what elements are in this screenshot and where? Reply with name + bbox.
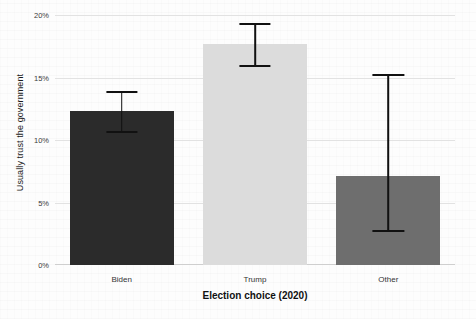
bar-trump[interactable] [203,44,307,265]
error-bar-cap-upper-trump [239,23,270,25]
error-bar-cap-lower-biden [106,131,137,133]
error-bar-line-other [388,74,390,230]
y-tick-label: 15% [34,73,49,82]
y-tick-label: 5% [38,198,49,207]
y-tick-label: 10% [34,136,49,145]
error-bar-cap-lower-trump [239,65,270,67]
error-bar-line-biden [121,91,123,131]
error-bar-cap-upper-other [373,74,404,76]
bar-chart-figure: Usually trust the government 0%5%10%15%2… [0,0,476,319]
y-axis-title: Usually trust the government [10,0,29,265]
gridline [55,15,455,16]
x-tick-label-other: Other [378,275,398,284]
bar-biden[interactable] [70,111,174,265]
plot-area: 0%5%10%15%20%BidenTrumpOther [55,15,455,265]
error-bar-cap-lower-other [373,230,404,232]
x-axis-title: Election choice (2020) [55,290,455,301]
x-tick-label-biden: Biden [111,275,131,284]
error-bar-line-trump [254,23,256,66]
y-tick-label: 20% [34,11,49,20]
y-tick-label: 0% [38,261,49,270]
x-tick-label-trump: Trump [244,275,267,284]
error-bar-cap-upper-biden [106,91,137,93]
